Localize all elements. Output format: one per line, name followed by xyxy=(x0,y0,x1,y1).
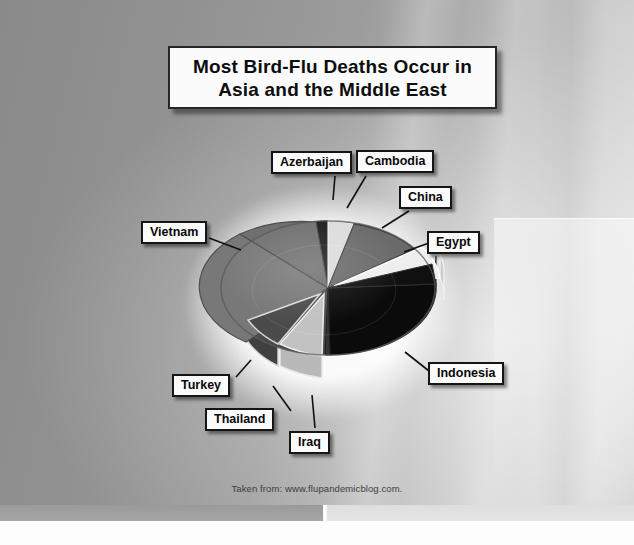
pie-top-face xyxy=(199,221,440,356)
callout-label-turkey[interactable]: Turkey xyxy=(172,374,230,397)
chart-title-line1: Most Bird-Flu Deaths Occur in xyxy=(193,56,472,77)
page-title: Most Bird-Flu Deaths Occur in Asia and t… xyxy=(193,55,472,101)
callout-label-china[interactable]: China xyxy=(399,186,452,209)
page-bottom-white xyxy=(0,521,634,545)
callout-label-azerbaijan[interactable]: Azerbaijan xyxy=(271,151,352,174)
chart-title-line2: Asia and the Middle East xyxy=(218,79,447,100)
callout-label-vietnam[interactable]: Vietnam xyxy=(141,221,207,244)
source-attribution: Taken from: www.flupandemicblog.com. xyxy=(0,483,634,494)
callout-label-iraq[interactable]: Iraq xyxy=(289,431,330,454)
page-bottom-band-left xyxy=(0,505,323,521)
paper-edge-face xyxy=(494,221,634,521)
chart-title-box: Most Bird-Flu Deaths Occur in Asia and t… xyxy=(168,46,497,109)
callout-label-indonesia[interactable]: Indonesia xyxy=(428,362,504,385)
page-bottom-band-right xyxy=(327,505,634,521)
callout-label-cambodia[interactable]: Cambodia xyxy=(356,150,434,173)
callout-label-thailand[interactable]: Thailand xyxy=(205,408,274,431)
screenshot-root: Most Bird-Flu Deaths Occur in Asia and t… xyxy=(0,0,634,545)
callout-label-egypt[interactable]: Egypt xyxy=(427,231,480,254)
